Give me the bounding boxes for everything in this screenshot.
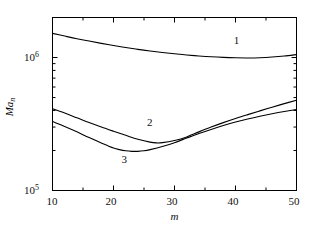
x-tick-label-40: 40: [228, 196, 239, 207]
curve-label-2: 2: [147, 117, 153, 128]
x-tick-label-30: 30: [167, 196, 178, 207]
x-axis-title: m: [171, 211, 179, 222]
axis-ticks: [53, 18, 297, 191]
curve-label-3: 3: [121, 154, 127, 165]
curve-2: [53, 100, 297, 143]
chart-figure: 106 105 10 20 30 40 50 Man m 1 2 3: [0, 0, 318, 228]
x-tick-label-10: 10: [47, 196, 58, 207]
y-tick-label-1e5: 105: [24, 184, 39, 196]
y-axis-title-subscript: n: [8, 98, 17, 102]
curve-label-1: 1: [234, 35, 240, 46]
y-tick-label-1e6: 106: [24, 51, 39, 63]
x-tick-label-50: 50: [289, 196, 300, 207]
curve-3: [53, 109, 297, 151]
y-axis-title: Man: [4, 98, 17, 117]
plot-area: [0, 0, 318, 228]
curve-1: [53, 33, 297, 58]
axes-frame: [53, 18, 297, 191]
y-axis-title-base: Ma: [3, 102, 15, 117]
data-curves: [53, 33, 297, 151]
y-axis-title-wrap: Man: [2, 78, 18, 136]
x-tick-label-20: 20: [106, 196, 117, 207]
